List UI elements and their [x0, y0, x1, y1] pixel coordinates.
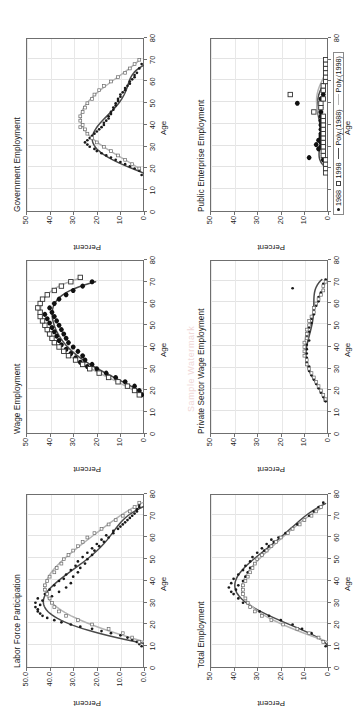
data-point-1998 [323, 75, 327, 79]
data-point-1988 [306, 154, 313, 161]
data-point-1998 [323, 166, 327, 170]
data-point-1998 [321, 84, 325, 88]
legend-item-poly-1998: Poly.(1998) [335, 56, 342, 105]
data-point-1998 [323, 162, 327, 166]
data-point-1998 [321, 118, 325, 122]
data-point-1998 [321, 114, 325, 118]
data-point-1998 [321, 136, 325, 140]
series-layer-public-enterprise-employment [0, 0, 360, 712]
data-point-1998 [323, 79, 327, 83]
data-point-1998 [321, 140, 325, 144]
data-point-1998 [323, 71, 327, 75]
legend-label-poly-1988: Poly.(1988) [335, 109, 342, 145]
legend-item-poly-1988: Poly.(1988) [335, 109, 342, 158]
data-point-1998 [321, 132, 325, 136]
data-point-1998 [323, 171, 327, 175]
data-point-1998 [321, 88, 325, 92]
data-point-1998 [321, 127, 325, 131]
square-marker-icon [336, 181, 341, 186]
data-point-1998 [323, 158, 327, 162]
figure-legend: 1988 1998 Poly.(1988) Poly.(1998) [333, 52, 344, 215]
legend-label-poly-1998: Poly.(1998) [335, 56, 342, 92]
data-point-1998 [319, 101, 323, 105]
legend-item-1988: 1988 [335, 190, 342, 211]
data-point-1998 [321, 149, 325, 153]
figure-rotation-wrapper: Sample Watermark Labor Force Participati… [0, 0, 360, 712]
dot-marker-icon [337, 208, 340, 211]
line-light-icon [338, 94, 339, 105]
legend-item-1998: 1998 [335, 163, 342, 186]
data-point-1998 [321, 97, 325, 101]
data-point-1998 [323, 58, 327, 62]
data-point-1998 [312, 110, 316, 114]
data-point-1998 [323, 66, 327, 70]
employment-by-age-figure: Sample Watermark Labor Force Participati… [0, 0, 360, 712]
line-dark-icon [338, 148, 339, 159]
legend-label-1988: 1988 [335, 190, 342, 206]
data-point-1998 [321, 145, 325, 149]
legend-label-1998: 1998 [335, 163, 342, 179]
data-point-1998 [323, 62, 327, 66]
data-point-1998 [319, 105, 323, 109]
data-point-1998 [321, 123, 325, 127]
data-point-1988 [294, 100, 301, 107]
data-point-1998 [321, 153, 325, 157]
data-point-1998 [288, 92, 292, 96]
